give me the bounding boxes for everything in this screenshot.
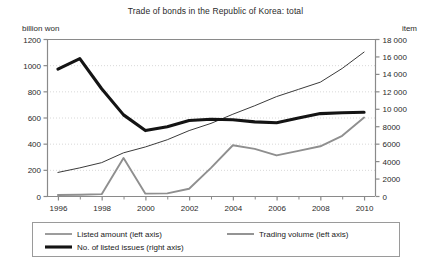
x-axis-tick-label: 1996: [50, 204, 68, 213]
data-series-2: [58, 59, 364, 131]
x-axis-tick-label: 2006: [268, 204, 286, 213]
x-axis-tick-label: 2000: [137, 204, 155, 213]
right-axis-tick-label: 0: [383, 193, 388, 202]
x-axis-tick-label: 2010: [356, 204, 374, 213]
x-axis-tick-label: 2004: [224, 204, 242, 213]
right-axis-tick-label: 4000: [383, 158, 401, 167]
chart-container: Trade of bonds in the Republic of Korea:…: [0, 0, 431, 260]
left-axis-tick-label: 800: [28, 88, 42, 97]
right-axis-tick-label: 16 000: [383, 53, 408, 62]
right-axis-tick-label: 18 000: [383, 36, 408, 45]
left-axis-tick-label: 1200: [23, 36, 41, 45]
left-axis-tick-label: 0: [37, 193, 42, 202]
right-axis-tick-label: 10 000: [383, 105, 408, 114]
right-axis-tick-label: 8000: [383, 123, 401, 132]
left-axis-tick-label: 1000: [23, 62, 41, 71]
right-axis-tick-label: 2000: [383, 175, 401, 184]
legend-label-2: No. of listed issues (right axis): [77, 243, 184, 252]
right-axis-tick-label: 12 000: [383, 88, 408, 97]
legend-label-1: Trading volume (left axis): [259, 230, 349, 239]
left-axis-tick-label: 200: [28, 166, 42, 175]
x-axis-tick-label: 1998: [93, 204, 111, 213]
left-axis-tick-label: 400: [28, 140, 42, 149]
data-series-1: [58, 118, 364, 195]
x-axis-tick-label: 2002: [181, 204, 199, 213]
right-axis-tick-label: 14 000: [383, 70, 408, 79]
data-series-0: [58, 52, 364, 172]
legend-label-0: Listed amount (left axis): [77, 230, 162, 239]
x-axis-tick-label: 2008: [312, 204, 330, 213]
chart-plot: 0200400600800100012000200040006000800010…: [0, 0, 431, 260]
left-axis-tick-label: 600: [28, 114, 42, 123]
right-axis-tick-label: 6000: [383, 140, 401, 149]
